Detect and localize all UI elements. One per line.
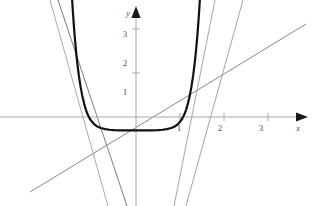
figure-background (0, 0, 318, 206)
y-axis-name-y: y (125, 8, 130, 18)
x-tick-2: 2 (218, 123, 223, 133)
math-graph-figure: yx321123 (0, 0, 318, 206)
y-tick-3: 3 (123, 29, 128, 39)
x-axis-name-x: x (295, 123, 300, 133)
y-tick-1: 1 (123, 87, 128, 97)
y-tick-2: 2 (123, 58, 128, 68)
x-tick-3: 3 (259, 123, 264, 133)
x-tick-1: 1 (177, 123, 182, 133)
plot-canvas: yx321123 (0, 0, 318, 206)
